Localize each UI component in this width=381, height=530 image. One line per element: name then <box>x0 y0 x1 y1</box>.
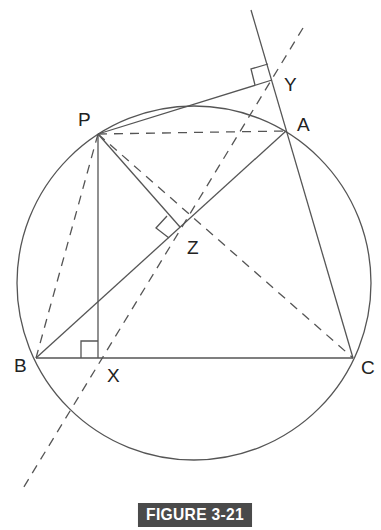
geometry-diagram <box>0 0 381 530</box>
label-z: Z <box>187 238 199 257</box>
simson-line <box>22 28 303 490</box>
label-p: P <box>78 110 91 129</box>
perp-pz <box>98 134 180 227</box>
dashed-pa <box>98 131 286 134</box>
label-b: B <box>14 356 27 375</box>
perp-py <box>98 80 272 134</box>
dashed-pb <box>36 134 98 358</box>
label-a: A <box>297 115 310 134</box>
label-y: Y <box>284 75 297 94</box>
right-angle-x <box>81 341 98 358</box>
line-ca-extended <box>251 10 353 358</box>
dashed-pc <box>98 134 353 358</box>
label-c: C <box>361 358 375 377</box>
figure-caption: FIGURE 3-21 <box>138 503 252 527</box>
circumcircle <box>17 106 371 460</box>
label-x: X <box>107 366 120 385</box>
right-angle-z <box>156 216 169 238</box>
side-ba <box>36 131 286 358</box>
